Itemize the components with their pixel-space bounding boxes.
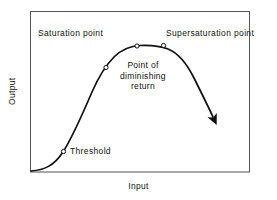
marker-supersaturation-point xyxy=(161,43,165,47)
marker-threshold xyxy=(61,149,65,153)
annotation-threshold: Threshold xyxy=(70,146,111,157)
y-axis-label: Output xyxy=(7,61,18,121)
diminishing-line-3: return xyxy=(131,81,155,91)
diminishing-line-1: Point of xyxy=(127,60,158,70)
chart-figure: Saturation point Supersaturation point P… xyxy=(0,0,277,200)
marker-point-of-diminishing-return xyxy=(104,65,108,69)
marker-saturation-point xyxy=(135,44,139,48)
annotation-saturation-point: Saturation point xyxy=(38,28,103,39)
diminishing-line-2: diminishing xyxy=(120,71,166,81)
annotation-supersaturation-point: Supersaturation point xyxy=(166,28,254,39)
annotation-point-of-diminishing-return: Point of diminishing return xyxy=(112,60,174,92)
x-axis-label: Input xyxy=(0,181,277,192)
